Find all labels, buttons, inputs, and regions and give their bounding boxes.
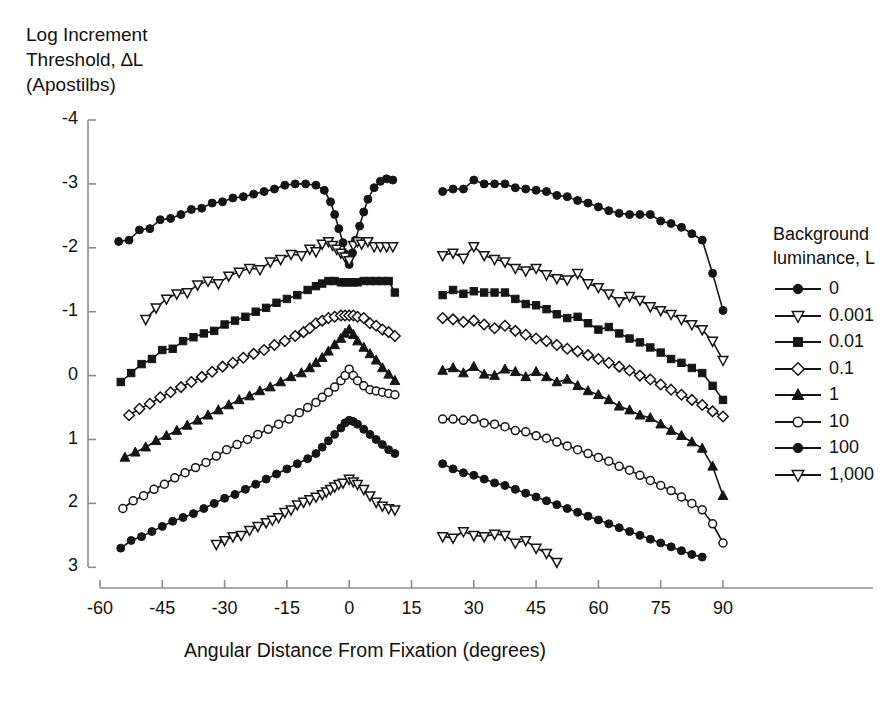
x-tick-label: 90 xyxy=(693,598,753,619)
y-tick-label: -4 xyxy=(44,108,78,129)
x-tick-label: 15 xyxy=(382,598,442,619)
legend-label: 10 xyxy=(829,411,849,432)
axes xyxy=(88,120,873,588)
legend-item[interactable]: 0.001 xyxy=(773,303,893,329)
x-tick-label: 75 xyxy=(631,598,691,619)
legend-marker-open-triangle-down xyxy=(773,462,823,488)
x-tick-label: 45 xyxy=(506,598,566,619)
y-tick-label: -1 xyxy=(44,300,78,321)
legend-title: Background luminance, L xyxy=(773,222,875,270)
x-tick-label: -15 xyxy=(257,598,317,619)
legend-marker-filled-triangle-up xyxy=(773,382,823,408)
x-tick-label: 60 xyxy=(568,598,628,619)
legend-marker-filled-circle xyxy=(773,435,823,461)
legend-marker-open-diamond xyxy=(773,356,823,382)
legend-label: 0 xyxy=(829,278,839,299)
x-tick-label: 0 xyxy=(319,598,379,619)
legend-item[interactable]: 0.01 xyxy=(773,329,893,355)
x-tick-label: -60 xyxy=(70,598,130,619)
legend-marker-filled-square xyxy=(773,329,823,355)
y-tick-label: 1 xyxy=(44,428,78,449)
legend-item[interactable]: 10 xyxy=(773,409,893,435)
y-axis-title: Log Increment Threshold, ∆L (Apostilbs) xyxy=(26,22,147,97)
y-tick-label: -3 xyxy=(44,172,78,193)
legend-item[interactable]: 100 xyxy=(773,435,893,461)
legend-label: 1 xyxy=(829,384,839,405)
data-series xyxy=(117,416,706,561)
y-tick-label: 3 xyxy=(44,555,78,576)
x-tick-label: -45 xyxy=(132,598,192,619)
legend-label: 0.001 xyxy=(829,305,874,326)
legend-marker-open-triangle-down xyxy=(773,303,823,329)
y-tick-label: -2 xyxy=(44,236,78,257)
legend-label: 0.01 xyxy=(829,331,864,352)
legend-item[interactable]: 1 xyxy=(773,382,893,408)
plot-area xyxy=(0,0,893,701)
y-tick-label: 2 xyxy=(44,491,78,512)
legend-marker-filled-circle xyxy=(773,276,823,302)
legend-item[interactable]: 1,000 xyxy=(773,462,893,488)
legend-label: 0.1 xyxy=(829,358,854,379)
x-tick-label: 30 xyxy=(444,598,504,619)
x-axis-title: Angular Distance From Fixation (degrees) xyxy=(184,638,546,663)
legend-item[interactable]: 0 xyxy=(773,276,893,302)
y-tick-label: 0 xyxy=(44,364,78,385)
x-tick-label: -30 xyxy=(195,598,255,619)
data-series xyxy=(211,475,561,567)
data-series xyxy=(119,365,727,547)
legend-label: 1,000 xyxy=(829,464,874,485)
legend-label: 100 xyxy=(829,437,859,458)
data-series xyxy=(115,175,727,315)
chart-figure: Log Increment Threshold, ∆L (Apostilbs) … xyxy=(0,0,893,701)
legend-marker-open-circle xyxy=(773,409,823,435)
legend-item[interactable]: 0.1 xyxy=(773,356,893,382)
